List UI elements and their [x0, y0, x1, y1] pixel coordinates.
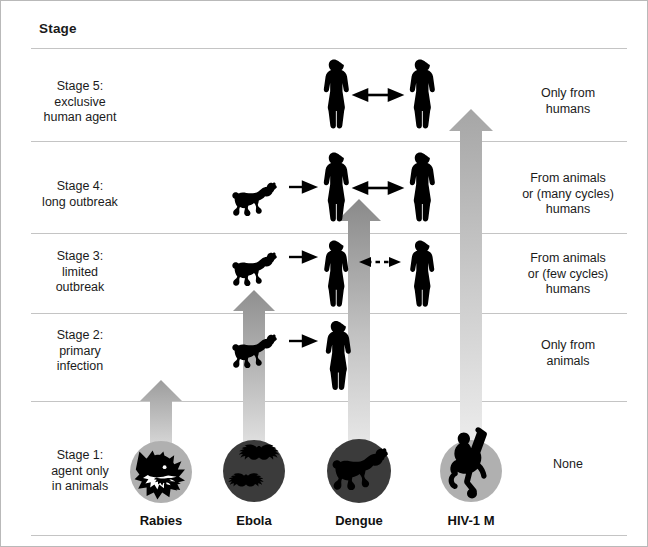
- double-headed-solid-arrow: [355, 183, 401, 193]
- transmission-label-stage3: From animalsor (few cycles)humans: [493, 251, 643, 298]
- human-silhouette: [324, 60, 349, 129]
- human-silhouette: [324, 240, 348, 306]
- stage-label-stage5: Stage 5:exclusivehuman agent: [5, 79, 155, 126]
- transmission-label-stage4: From animalsor (many cycles)humans: [493, 171, 643, 218]
- transmission-label-stage5: Only fromhumans: [493, 86, 643, 117]
- stage4-scene: [230, 153, 435, 222]
- stage1-scene: [130, 427, 502, 503]
- stage-label-stage4: Stage 4:long outbreak: [5, 179, 155, 210]
- disease-name-hiv1m: HIV-1 M: [416, 513, 526, 528]
- single-headed-solid-arrow: [289, 336, 315, 346]
- human-silhouette: [410, 240, 434, 306]
- transmission-label-stage2: Only fromanimals: [493, 338, 643, 369]
- single-headed-solid-arrow: [289, 182, 315, 192]
- disease-name-ebola: Ebola: [199, 513, 309, 528]
- progression-arrow-hiv1m: [449, 109, 493, 471]
- double-headed-solid-arrow: [355, 90, 401, 100]
- human-silhouette: [410, 60, 435, 129]
- transmission-label-stage1: None: [493, 457, 643, 473]
- medallion-dengue: [327, 439, 391, 503]
- human-silhouette: [324, 153, 349, 222]
- single-headed-solid-arrow: [289, 252, 315, 262]
- stage-label-stage3: Stage 3:limitedoutbreak: [5, 249, 155, 296]
- stage-label-stage2: Stage 2:primaryinfection: [5, 328, 155, 375]
- pathogen-stage-diagram: Stage: [0, 0, 648, 547]
- disease-name-dengue: Dengue: [304, 513, 414, 528]
- monkey-silhouette: [230, 183, 277, 217]
- human-silhouette: [326, 321, 351, 390]
- stage5-scene: [324, 60, 435, 129]
- stage-label-stage1: Stage 1:agent onlyin animals: [5, 448, 155, 495]
- monkey-silhouette: [230, 253, 277, 287]
- human-silhouette: [410, 153, 435, 222]
- medallion-ebola: [223, 440, 285, 502]
